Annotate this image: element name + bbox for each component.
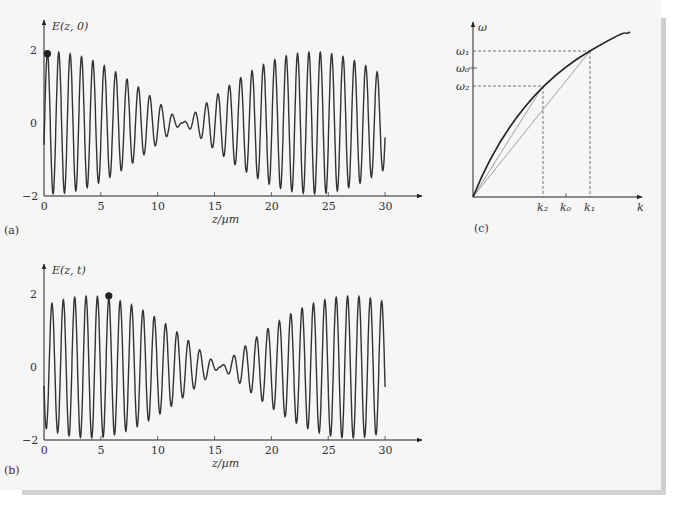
c-k2-label: k₂ [537, 201, 548, 214]
a-ytick-neg2: −2 [22, 190, 38, 203]
b-x-ticks: 051015202530 [41, 436, 393, 457]
a-ytick-0: 0 [30, 117, 37, 130]
panel-label-b: (b) [4, 464, 20, 477]
a-x-ticks: 051015202530 [41, 192, 393, 213]
x-tick-label: 10 [151, 200, 165, 213]
a-ytick-2: 2 [30, 44, 37, 57]
c-secant-2 [473, 86, 543, 197]
c-k1-label: k₁ [584, 201, 595, 214]
x-tick-label: 15 [208, 444, 222, 457]
x-tick-label: 30 [379, 200, 393, 213]
panel-c: ω ω₁ ω₀ ω₂ k₂ k₀ k₁ k (c) [456, 21, 644, 235]
c-secant-1 [473, 51, 590, 197]
b-wave-curve [44, 296, 385, 438]
a-wave-curve [44, 52, 385, 194]
b-ytick-neg2: −2 [22, 434, 38, 447]
x-tick-label: 10 [151, 444, 165, 457]
b-marker-dot [105, 292, 112, 299]
panel-a: 051015202530 E(z, 0) 2 0 −2 z/µm (a) [4, 20, 422, 237]
c-w0-label: ω₀ [456, 62, 470, 75]
x-tick-label: 5 [98, 200, 105, 213]
x-tick-label: 0 [41, 200, 48, 213]
x-tick-label: 25 [322, 200, 336, 213]
panel-b: 051015202530 E(z, t) 2 0 −2 z/µm (b) [4, 264, 422, 477]
b-x-label: z/µm [211, 457, 239, 470]
c-w1-label: ω₁ [456, 45, 469, 58]
x-tick-label: 20 [265, 444, 279, 457]
x-tick-label: 25 [322, 444, 336, 457]
b-ytick-0: 0 [30, 361, 37, 374]
c-k0-label: k₀ [560, 201, 572, 214]
b-ytick-2: 2 [30, 288, 37, 301]
x-tick-label: 20 [265, 200, 279, 213]
b-y-label: E(z, t) [51, 264, 86, 277]
a-marker-dot [44, 50, 51, 57]
c-w2-label: ω₂ [456, 80, 469, 93]
c-dispersion-curve [473, 32, 630, 197]
figure-svg: 051015202530 E(z, 0) 2 0 −2 z/µm (a) 051… [0, 0, 678, 511]
panel-label-a: (a) [4, 224, 19, 237]
panel-label-c: (c) [474, 222, 489, 235]
c-x-label: k [637, 201, 644, 214]
x-tick-label: 30 [379, 444, 393, 457]
x-tick-label: 0 [41, 444, 48, 457]
a-x-label: z/µm [211, 213, 239, 226]
x-tick-label: 15 [208, 200, 222, 213]
a-y-label: E(z, 0) [51, 20, 88, 33]
c-y-label: ω [478, 21, 487, 34]
x-tick-label: 5 [98, 444, 105, 457]
